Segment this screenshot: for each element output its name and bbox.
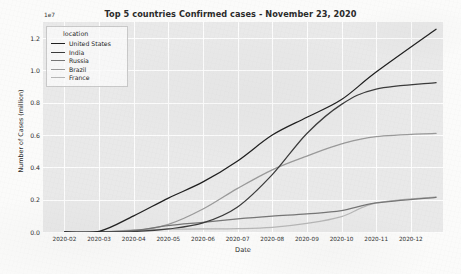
y-axis-exponent-label: 1e7 <box>44 12 55 18</box>
legend-item[interactable]: France <box>51 74 123 83</box>
y-tick-label: 0.0 <box>4 229 40 236</box>
series-line-india <box>64 83 436 232</box>
legend-item[interactable]: Russia <box>51 57 123 66</box>
legend-color-swatch <box>51 69 65 70</box>
legend-item-label: France <box>69 74 90 81</box>
chart-title: Top 5 countries Confirmed cases - Novemb… <box>0 9 461 19</box>
legend-color-swatch <box>51 77 65 78</box>
y-tick-label: 1.2 <box>4 35 40 42</box>
x-axis-label: Date <box>43 246 443 254</box>
series-line-russia <box>64 197 436 232</box>
legend-entries: United StatesIndiaRussiaBrazilFrance <box>51 40 123 83</box>
legend-item-label: Russia <box>69 57 89 64</box>
chart-figure: Top 5 countries Confirmed cases - Novemb… <box>0 0 461 274</box>
legend-item[interactable]: India <box>51 48 123 57</box>
legend-title: location <box>63 30 123 38</box>
x-tick-label: 2020-12 <box>388 236 434 242</box>
gridline-horizontal <box>43 232 443 233</box>
legend-item[interactable]: Brazil <box>51 65 123 74</box>
legend-item-label: India <box>69 49 84 56</box>
legend-item-label: United States <box>69 40 111 47</box>
y-axis-label: Number of Cases (million) <box>17 66 25 196</box>
legend-item-label: Brazil <box>69 66 86 73</box>
legend-color-swatch <box>51 43 65 44</box>
legend-item[interactable]: United States <box>51 40 123 49</box>
legend-color-swatch <box>51 60 65 61</box>
legend-color-swatch <box>51 52 65 53</box>
legend: location United StatesIndiaRussiaBrazilF… <box>46 26 128 87</box>
y-tick-label: 0.2 <box>4 196 40 203</box>
